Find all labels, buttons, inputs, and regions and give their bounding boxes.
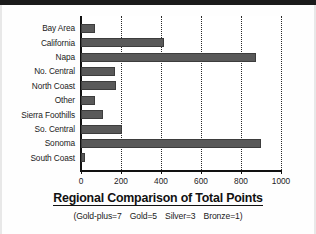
bar-bay-area [81, 24, 95, 33]
x-axis-line [80, 170, 282, 172]
bar-sierra-foothills [81, 110, 103, 119]
chart-subtitle: (Gold-plus=7Gold=5Silver=3Bronze=1) [0, 211, 316, 221]
plot-wrapper: Bay Area California Napa No. Central Nor… [0, 5, 316, 234]
x-tick-labels: 02004006008001000 [81, 176, 281, 188]
x-tick-label-200: 200 [114, 176, 128, 186]
bar-row-no-central [81, 64, 281, 78]
bar-sonoma [81, 139, 261, 148]
x-tick-label-0: 0 [79, 176, 84, 186]
category-label-bay-area: Bay Area [2, 21, 78, 35]
bar-row-california [81, 35, 281, 49]
category-label-sonoma: Sonoma [2, 136, 78, 150]
bar-south-coast [81, 153, 85, 162]
gridline-1000 [281, 16, 282, 170]
x-tick-label-400: 400 [154, 176, 168, 186]
bar-so-central [81, 125, 122, 134]
bar-other [81, 96, 95, 105]
bar-row-sierra-foothills [81, 107, 281, 121]
bar-california [81, 38, 164, 47]
subtitle-segment-3: Bronze=1) [204, 211, 243, 221]
category-label-no-central: No. Central [2, 64, 78, 78]
category-label-napa: Napa [2, 50, 78, 64]
category-label-north-coast: North Coast [2, 79, 78, 93]
chart-title-text: Regional Comparison of Total Points [53, 191, 263, 206]
bar-row-north-coast [81, 79, 281, 93]
category-label-california: California [2, 35, 78, 49]
bar-north-coast [81, 81, 116, 90]
x-tick-label-800: 800 [234, 176, 248, 186]
category-label-sierra-foothills: Sierra Foothills [2, 107, 78, 121]
bar-series [81, 21, 281, 165]
category-label-other: Other [2, 93, 78, 107]
category-label-so-central: So. Central [2, 122, 78, 136]
bar-row-bay-area [81, 21, 281, 35]
chart-title: Regional Comparison of Total Points [0, 191, 316, 205]
subtitle-segment-1: Gold=5 [130, 211, 157, 221]
x-tick-label-600: 600 [194, 176, 208, 186]
subtitle-segment-0: (Gold-plus=7 [73, 211, 121, 221]
subtitle-segment-2: Silver=3 [165, 211, 196, 221]
bar-row-south-coast [81, 151, 281, 165]
bar-row-other [81, 93, 281, 107]
category-axis: Bay Area California Napa No. Central Nor… [2, 21, 78, 165]
x-tick-label-1000: 1000 [272, 176, 290, 186]
bar-row-so-central [81, 122, 281, 136]
bar-row-napa [81, 50, 281, 64]
plot-area [81, 16, 281, 170]
chart-figure: Bay Area California Napa No. Central Nor… [0, 0, 316, 234]
bar-row-sonoma [81, 136, 281, 150]
bar-no-central [81, 67, 115, 76]
bar-napa [81, 53, 256, 62]
category-label-south-coast: South Coast [2, 151, 78, 165]
